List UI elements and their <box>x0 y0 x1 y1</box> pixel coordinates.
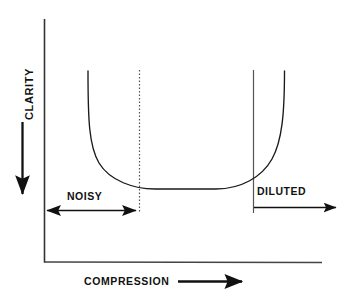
y-axis-label: CLARITY <box>23 59 35 129</box>
region-label-diluted: DILUTED <box>257 185 306 197</box>
clarity-curve <box>88 71 285 189</box>
diagram-svg <box>0 0 354 305</box>
x-axis-label: COMPRESSION <box>84 275 169 287</box>
region-label-noisy: NOISY <box>67 190 102 202</box>
x-axis-line <box>44 262 322 263</box>
diagram-canvas: CLARITY NOISY DILUTED COMPRESSION <box>0 0 354 305</box>
